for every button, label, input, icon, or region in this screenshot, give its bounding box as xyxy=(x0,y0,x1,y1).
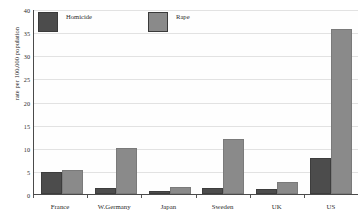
plot-area xyxy=(33,10,358,195)
x-tick-group: France xyxy=(33,195,87,214)
bar-group xyxy=(250,10,304,194)
legend: Homicide Rape xyxy=(38,12,190,32)
x-tick-label: UK xyxy=(250,203,304,210)
x-axis: FranceW.GermanyJapanSwedenUKUS xyxy=(33,195,358,214)
bar-rape-france xyxy=(62,170,83,195)
bar-rape-us xyxy=(331,29,352,194)
bar-rape-japan xyxy=(170,187,191,194)
legend-label-homicide: Homicide xyxy=(66,13,92,20)
x-tick-mark xyxy=(141,195,142,198)
x-tick-label: Japan xyxy=(141,203,195,210)
legend-label-rape: Rape xyxy=(176,13,190,20)
bar-homicide-uk xyxy=(256,189,277,194)
bar-rape-sweden xyxy=(223,139,244,194)
x-tick-mark xyxy=(304,195,305,198)
bar-group xyxy=(196,10,250,194)
x-tick-group: UK xyxy=(250,195,304,214)
bar-chart: rate per 100,000 population 403530252015… xyxy=(0,0,364,214)
x-tick-mark xyxy=(196,195,197,198)
y-axis-tick-labels: 4035302520151050 xyxy=(8,0,33,214)
legend-swatch-rape xyxy=(148,12,168,32)
bar-homicide-us xyxy=(310,158,331,194)
y-tick-label: 40 xyxy=(8,7,33,14)
x-tick-group: Sweden xyxy=(196,195,250,214)
x-tick-label: W.Germany xyxy=(87,203,141,210)
y-tick-label: 20 xyxy=(8,99,33,106)
y-tick-label: 25 xyxy=(8,76,33,83)
bar-group xyxy=(89,10,143,194)
y-tick-label: 30 xyxy=(8,53,33,60)
bar-rape-wgermany xyxy=(116,148,137,194)
y-tick-label: 10 xyxy=(8,145,33,152)
x-tick-group: W.Germany xyxy=(87,195,141,214)
x-tick-group: US xyxy=(304,195,358,214)
bar-group xyxy=(143,10,197,194)
legend-entry-homicide: Homicide xyxy=(38,12,92,32)
x-tick-mark xyxy=(87,195,88,198)
bar-group xyxy=(35,10,89,194)
bar-homicide-sweden xyxy=(202,188,223,194)
bar-groups xyxy=(35,10,358,194)
x-tick-mark xyxy=(33,195,34,198)
x-tick-label: US xyxy=(304,203,358,210)
x-tick-group: Japan xyxy=(141,195,195,214)
bar-homicide-japan xyxy=(149,191,170,194)
x-tick-label: France xyxy=(33,203,87,210)
bar-homicide-france xyxy=(41,172,62,194)
x-tick-label: Sweden xyxy=(196,203,250,210)
bar-rape-uk xyxy=(277,182,298,194)
legend-swatch-homicide xyxy=(38,12,58,32)
y-tick-label: 15 xyxy=(8,122,33,129)
y-tick-label: 35 xyxy=(8,30,33,37)
legend-entry-rape: Rape xyxy=(148,12,190,32)
bar-group xyxy=(304,10,358,194)
y-tick-label: 5 xyxy=(8,168,33,175)
x-tick-mark xyxy=(250,195,251,198)
bar-homicide-wgermany xyxy=(95,188,116,194)
y-tick-label: 0 xyxy=(8,192,33,199)
